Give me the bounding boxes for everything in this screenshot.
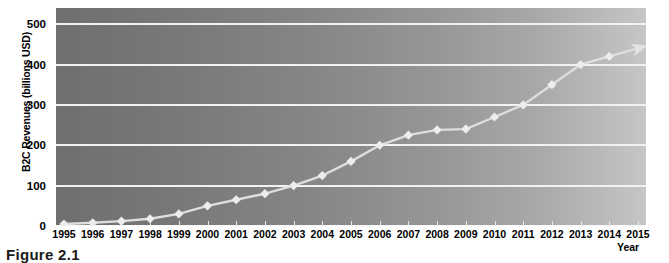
x-tick-label-2007: 2007 xyxy=(397,228,420,240)
x-tick-label-2003: 2003 xyxy=(282,228,305,240)
x-tick-label-2008: 2008 xyxy=(425,228,448,240)
data-point-2005 xyxy=(346,157,355,166)
data-point-2010 xyxy=(490,112,499,121)
data-point-2006 xyxy=(375,141,384,150)
x-tick-label-2009: 2009 xyxy=(454,228,477,240)
figure-caption: Figure 2.1 xyxy=(6,246,80,263)
x-tickmark-1996 xyxy=(93,221,94,226)
x-tick-label-2010: 2010 xyxy=(483,228,506,240)
x-tickmark-2000 xyxy=(208,221,209,226)
y-tick-label-500: 500 xyxy=(0,18,46,30)
x-tick-label-2012: 2012 xyxy=(540,228,563,240)
x-tick-label-2006: 2006 xyxy=(368,228,391,240)
x-tickmark-2010 xyxy=(495,221,496,226)
x-tick-label-1998: 1998 xyxy=(138,228,161,240)
x-tickmark-2001 xyxy=(236,221,237,226)
y-tick-label-0: 0 xyxy=(0,220,46,232)
x-axis-title: Year xyxy=(617,241,639,253)
data-point-2001 xyxy=(232,195,241,204)
x-tickmark-2011 xyxy=(523,221,524,226)
y-tick-label-200: 200 xyxy=(0,139,46,151)
x-tick-label-2011: 2011 xyxy=(512,228,535,240)
data-point-2003 xyxy=(289,181,298,190)
x-tickmark-1995 xyxy=(64,221,65,226)
y-tick-label-100: 100 xyxy=(0,180,46,192)
x-tickmark-2013 xyxy=(581,221,582,226)
x-tick-label-2000: 2000 xyxy=(196,228,219,240)
x-tick-label-2004: 2004 xyxy=(311,228,334,240)
x-tick-label-1996: 1996 xyxy=(81,228,104,240)
x-axis-tick-labels: 1995199619971998199920002001200220032004… xyxy=(56,228,646,244)
x-tickmark-2009 xyxy=(466,221,467,226)
x-tickmark-2015 xyxy=(638,221,639,226)
x-tickmark-2012 xyxy=(552,221,553,226)
x-tick-label-1999: 1999 xyxy=(167,228,190,240)
plot-area xyxy=(56,8,646,226)
x-tickmark-2003 xyxy=(294,221,295,226)
data-point-2004 xyxy=(318,171,327,180)
y-axis-tick-labels: 0100200300400500 xyxy=(0,0,50,240)
data-point-1999 xyxy=(174,209,183,218)
x-tickmark-2002 xyxy=(265,221,266,226)
x-tick-label-2015: 2015 xyxy=(626,228,649,240)
data-point-2014 xyxy=(605,52,614,61)
x-tickmark-2004 xyxy=(322,221,323,226)
x-tickmark-2006 xyxy=(380,221,381,226)
x-tickmark-2005 xyxy=(351,221,352,226)
y-tick-label-400: 400 xyxy=(0,59,46,71)
x-tick-label-1995: 1995 xyxy=(52,228,75,240)
x-tick-label-2001: 2001 xyxy=(225,228,248,240)
data-point-2009 xyxy=(461,125,470,134)
x-tickmark-2007 xyxy=(408,221,409,226)
data-series-line xyxy=(56,8,646,226)
data-point-2000 xyxy=(203,201,212,210)
x-tick-label-2014: 2014 xyxy=(598,228,621,240)
x-tickmark-1999 xyxy=(179,221,180,226)
x-tick-label-2002: 2002 xyxy=(253,228,276,240)
x-tickmark-1998 xyxy=(150,221,151,226)
data-point-2002 xyxy=(260,189,269,198)
x-tick-label-2005: 2005 xyxy=(339,228,362,240)
x-tickmark-2008 xyxy=(437,221,438,226)
x-tickmark-1997 xyxy=(121,221,122,226)
x-tick-label-2013: 2013 xyxy=(569,228,592,240)
data-point-2007 xyxy=(404,131,413,140)
x-tick-label-1997: 1997 xyxy=(110,228,133,240)
x-tickmark-2014 xyxy=(609,221,610,226)
y-tick-label-300: 300 xyxy=(0,99,46,111)
data-point-2008 xyxy=(433,125,442,134)
